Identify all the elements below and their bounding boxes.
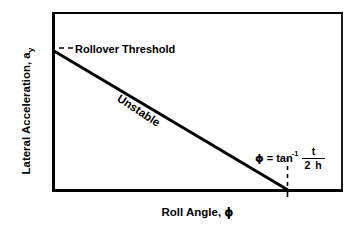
equation-equals-sign: = [267,153,273,164]
equation-exponent: -1 [292,150,299,158]
equation-fraction: t 2 h [302,146,324,170]
rollover-threshold-figure: Lateral Acceleration, ay Roll Angle, ϕ R… [0,0,363,233]
plot-canvas [0,0,363,233]
critical-angle-equation: ϕ = tan-1 t 2 h [255,146,325,170]
x-axis-phi-symbol: ϕ [224,205,233,219]
equation-phi-symbol: ϕ [255,153,264,164]
equation-tan-function: tan [276,153,293,164]
y-axis-subscript: y [26,48,35,52]
y-axis-title: Lateral Acceleration, ay [21,21,35,201]
rollover-boundary-line [54,51,288,190]
x-axis-title-text: Roll Angle, [162,206,225,218]
y-axis-title-text: Lateral Acceleration, a [20,52,32,174]
rollover-threshold-label: Rollover Threshold [75,44,175,55]
equation-denominator: 2 h [302,159,324,171]
x-axis-title: Roll Angle, ϕ [52,207,343,219]
equation-numerator: t [310,146,318,158]
